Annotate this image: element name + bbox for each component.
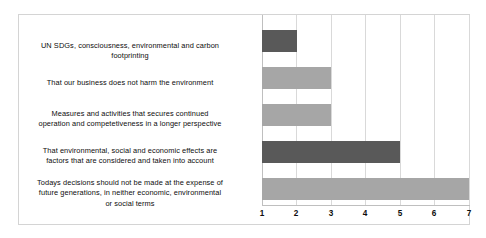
x-tick-4: 4 (355, 209, 375, 218)
category-label-0-line-1: footprinting (23, 51, 237, 61)
x-tick-5: 5 (390, 209, 410, 218)
category-label-2: Measures and activities that secures con… (23, 109, 237, 130)
x-tick-3: 3 (321, 209, 341, 218)
category-label-1: That our business does not harm the envi… (23, 78, 237, 88)
bar-3[interactable] (262, 141, 400, 163)
category-label-2-line-1: operation and competetiveness in a longe… (23, 119, 237, 129)
x-tick-7: 7 (459, 209, 479, 218)
x-tick-2: 2 (286, 209, 306, 218)
category-label-4-line-1: future generations, in neither economic,… (23, 188, 237, 198)
chart-frame: UN SDGs, consciousness, environmental an… (18, 14, 470, 225)
value-axis-ticks: 1 2 3 4 5 6 7 (241, 206, 470, 225)
bar-4[interactable] (262, 178, 469, 200)
x-tick-6: 6 (424, 209, 444, 218)
category-label-4-line-0: Todays decisions should not be made at t… (23, 178, 237, 188)
bar-0[interactable] (262, 30, 297, 52)
plot-area: Number of companies (241, 15, 470, 206)
category-label-4-line-2: or social terms (23, 199, 237, 209)
bar-1[interactable] (262, 67, 331, 89)
bar-2[interactable] (262, 104, 331, 126)
category-label-3: That environmental, social and economic … (23, 146, 237, 167)
category-axis-labels: UN SDGs, consciousness, environmental an… (19, 15, 241, 206)
category-label-1-line-0: That our business does not harm the envi… (23, 78, 237, 88)
category-label-3-line-1: factors that are considered and taken in… (23, 156, 237, 166)
category-label-4: Todays decisions should not be made at t… (23, 178, 237, 209)
category-label-0-line-0: UN SDGs, consciousness, environmental an… (23, 41, 237, 51)
x-tick-1: 1 (252, 209, 272, 218)
gridline-7 (469, 15, 470, 206)
category-label-0: UN SDGs, consciousness, environmental an… (23, 41, 237, 62)
category-label-2-line-0: Measures and activities that secures con… (23, 109, 237, 119)
category-label-3-line-0: That environmental, social and economic … (23, 146, 237, 156)
